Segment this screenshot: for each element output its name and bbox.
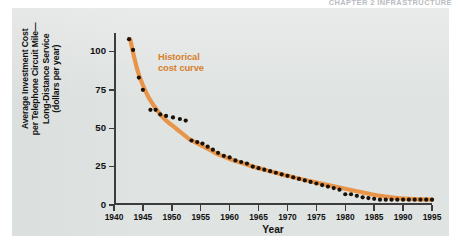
data-point: [337, 188, 341, 192]
data-point: [366, 196, 370, 200]
data-point: [154, 108, 158, 112]
data-point: [355, 194, 359, 198]
data-point: [349, 192, 353, 196]
data-point: [378, 198, 382, 202]
x-tick-label: 1955: [191, 212, 210, 222]
x-tick: [113, 205, 114, 211]
x-tick: [316, 205, 317, 211]
data-point: [195, 140, 199, 144]
data-point: [314, 181, 318, 185]
plot-area: 0255075100 19401945195019551960196519701…: [114, 33, 432, 205]
y-tick-label: 100: [90, 45, 106, 56]
data-point: [211, 148, 215, 152]
data-point: [274, 171, 278, 175]
data-point: [137, 75, 141, 79]
data-point: [216, 151, 220, 155]
data-point: [430, 198, 434, 202]
data-point: [148, 108, 152, 112]
x-tick: [142, 205, 143, 211]
data-point: [256, 166, 260, 170]
data-point: [184, 118, 188, 122]
x-tick: [345, 205, 346, 211]
x-tick-label: 1990: [394, 212, 413, 222]
x-tick-label: 1950: [162, 212, 181, 222]
data-point: [389, 198, 393, 202]
x-tick-label: 1985: [365, 212, 384, 222]
figure-panel: Average Investment Cost per Telephone Ci…: [12, 8, 449, 236]
data-point: [131, 48, 135, 52]
data-point: [268, 169, 272, 173]
y-tick-label: 25: [95, 160, 106, 171]
x-tick-label: 1965: [249, 212, 268, 222]
data-point: [320, 183, 324, 187]
x-tick-label: 1940: [105, 212, 124, 222]
x-tick: [229, 205, 230, 211]
x-tick-label: 1980: [336, 212, 355, 222]
data-point: [343, 192, 347, 196]
data-point: [164, 114, 168, 118]
y-tick-label: 50: [95, 122, 106, 133]
data-point: [332, 186, 336, 190]
x-tick: [287, 205, 288, 211]
data-point: [158, 112, 162, 116]
y-axis-title: Average Investment Cost per Telephone Ci…: [20, 0, 62, 174]
data-point: [308, 180, 312, 184]
data-point: [239, 160, 243, 164]
data-point: [233, 158, 237, 162]
data-point: [141, 88, 145, 92]
x-tick-label: 1945: [134, 212, 153, 222]
x-tick: [200, 205, 201, 211]
data-point: [280, 172, 284, 176]
x-axis-title: Year: [114, 224, 432, 235]
data-point: [200, 141, 204, 145]
x-tick: [258, 205, 259, 211]
x-tick: [373, 205, 374, 211]
data-point: [401, 198, 405, 202]
data-point: [303, 178, 307, 182]
data-point: [291, 175, 295, 179]
y-tick-label: 75: [95, 84, 106, 95]
data-point: [395, 198, 399, 202]
x-tick-label: 1970: [278, 212, 297, 222]
data-point: [127, 37, 131, 41]
data-point: [326, 184, 330, 188]
data-point: [262, 168, 266, 172]
figure-page: CHAPTER 2 INFRASTRUCTURE Average Investm…: [0, 0, 461, 250]
data-point: [418, 198, 422, 202]
data-point: [171, 115, 175, 119]
data-point: [228, 155, 232, 159]
x-tick: [402, 205, 403, 211]
data-point: [407, 198, 411, 202]
data-point: [251, 165, 255, 169]
data-point: [245, 161, 249, 165]
x-tick-label: 1995: [423, 212, 442, 222]
data-point: [189, 138, 193, 142]
x-tick-label: 1975: [307, 212, 326, 222]
data-point: [178, 117, 182, 121]
y-tick-label: 0: [101, 199, 106, 210]
x-tick-label: 1960: [220, 212, 239, 222]
data-point: [361, 195, 365, 199]
data-point: [206, 145, 210, 149]
data-point: [413, 198, 417, 202]
x-tick: [171, 205, 172, 211]
data-point: [384, 198, 388, 202]
data-point: [372, 197, 376, 201]
data-point: [285, 174, 289, 178]
running-head-text: CHAPTER 2 INFRASTRUCTURE: [292, 0, 452, 6]
data-point: [222, 154, 226, 158]
data-point: [424, 198, 428, 202]
data-point: [297, 177, 301, 181]
x-tick: [431, 205, 432, 211]
curve-annotation-label: Historical cost curve: [158, 52, 204, 73]
